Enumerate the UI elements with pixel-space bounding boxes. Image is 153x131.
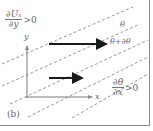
gradient-denominator: ∂x — [112, 88, 124, 97]
shear-denominator: ∂y — [8, 20, 20, 29]
gradient-relation: >0 — [125, 83, 138, 93]
x-axis-label: x — [95, 93, 100, 101]
axes — [26, 46, 92, 98]
theta-label: θ — [120, 21, 125, 29]
temperature-gradient-condition: ∂θ ∂x >0 — [112, 78, 138, 98]
velocity-shear-condition: ∂Uₓ ∂y >0 — [5, 10, 37, 30]
theta-plus-dtheta-label: θ+∂θ — [110, 38, 130, 46]
y-axis-label: y — [24, 33, 29, 41]
panel-label: (b) — [7, 109, 20, 119]
shear-relation: >0 — [23, 15, 36, 25]
